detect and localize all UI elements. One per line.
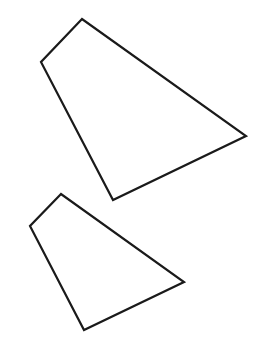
large-quadrilateral bbox=[41, 19, 246, 200]
small-quadrilateral bbox=[30, 194, 184, 330]
shapes-svg bbox=[0, 0, 260, 363]
diagram-canvas bbox=[0, 0, 260, 363]
